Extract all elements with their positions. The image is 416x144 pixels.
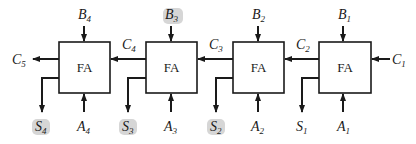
- a3-label: A3: [163, 119, 178, 136]
- c5-label: C5: [12, 52, 26, 69]
- fa-label: FA: [164, 60, 180, 75]
- s2-output-arrow: [216, 78, 233, 112]
- c4-label: C4: [122, 37, 136, 54]
- b2-label: B2: [252, 7, 266, 24]
- b4-label: B4: [78, 7, 92, 24]
- fa-label: FA: [251, 60, 267, 75]
- ripple-carry-adder-diagram: FA B4 A4 C5 S4 FA B3 A3 C4 S3 FA B2: [0, 0, 416, 144]
- s1-label: S1: [296, 119, 308, 136]
- a2-label: A2: [250, 119, 265, 136]
- a1-label: A1: [336, 119, 350, 136]
- c2-label: C2: [296, 37, 310, 54]
- full-adder-block-2: FA B2 A2 C3 S2: [198, 7, 284, 136]
- fa-label: FA: [77, 60, 93, 75]
- c1-label: C1: [392, 52, 406, 69]
- b1-label: B1: [338, 7, 351, 24]
- full-adder-block-1: FA B1 A1 C2 C1 S1: [285, 7, 406, 136]
- full-adder-block-3: FA B3 A3 C4 S3: [111, 7, 197, 136]
- full-adder-block-4: FA B4 A4 C5 S4: [12, 7, 110, 136]
- c3-label: C3: [209, 37, 223, 54]
- a4-label: A4: [76, 119, 91, 136]
- s4-output-arrow: [42, 78, 59, 112]
- s1-output-arrow: [302, 78, 319, 112]
- s3-output-arrow: [128, 78, 146, 112]
- fa-label: FA: [337, 60, 353, 75]
